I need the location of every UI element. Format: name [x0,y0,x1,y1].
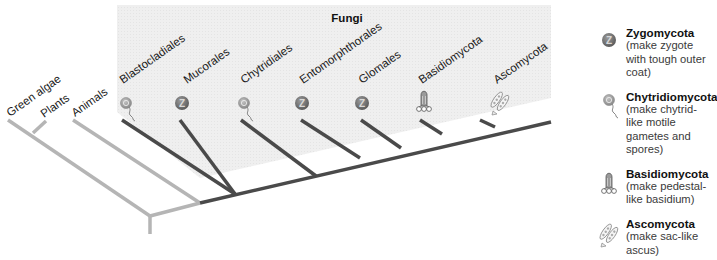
legend-item-chytridiomycota: Chytridiomycota (make chytrid-like motil… [596,90,712,157]
fungi-clade-panel [117,5,551,178]
legend-description: (make pedestal-like basidium) [626,180,712,207]
zygote-icon [295,96,309,110]
ascus-icon [596,219,622,249]
zygote-icon [175,96,189,110]
chytrid-spore-icon [596,92,622,122]
legend-name: Ascomycota [626,217,712,230]
taxon-label-animals: Animals [69,85,110,118]
legend-item-zygomycota: Zygomycota (make zygote with tough outer… [596,26,712,80]
legend-name: Zygomycota [626,26,712,39]
legend-description: (make sac-like ascus) [626,230,712,257]
legend-description: (make chytrid-like motile gametes and sp… [626,103,712,157]
legend-description: (make zygote with tough outer coat) [626,39,712,79]
zygote-icon [355,96,369,110]
legend-name: Chytridiomycota [626,90,712,103]
legend-name: Basidiomycota [626,167,712,180]
fungi-group-title: Fungi [331,12,362,24]
basidium-icon [596,169,622,199]
legend: Zygomycota (make zygote with tough outer… [596,26,712,260]
legend-item-ascomycota: Ascomycota (make sac-like ascus) [596,217,712,257]
zygote-icon [596,28,622,58]
legend-item-basidiomycota: Basidiomycota (make pedestal-like basidi… [596,167,712,207]
